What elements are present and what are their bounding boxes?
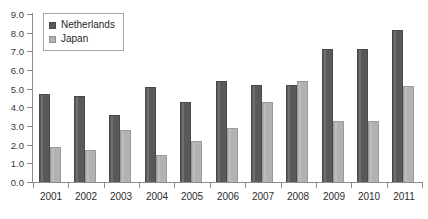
x-axis-tick xyxy=(387,183,388,188)
bar-netherlands-2010 xyxy=(357,49,368,182)
x-axis-tick-label: 2002 xyxy=(66,192,106,202)
bar-netherlands-2008 xyxy=(286,85,297,182)
x-axis-tick xyxy=(245,183,246,188)
bar-netherlands-2005 xyxy=(180,102,191,182)
x-axis-tick-label: 2008 xyxy=(278,192,318,202)
legend-label-japan: Japan xyxy=(61,34,88,44)
bar-highlight xyxy=(76,97,78,182)
bar-highlight xyxy=(229,129,231,182)
bar-japan-2005 xyxy=(191,141,202,182)
bar-netherlands-2004 xyxy=(145,87,156,182)
bar-japan-2009 xyxy=(333,121,344,182)
bar-highlight xyxy=(264,103,266,182)
bar-japan-2002 xyxy=(85,150,96,182)
bar-japan-2008 xyxy=(297,81,308,182)
legend-item-netherlands: Netherlands xyxy=(49,18,115,32)
bar-highlight xyxy=(87,151,89,182)
bar-highlight xyxy=(52,148,54,182)
bar-japan-2004 xyxy=(156,155,167,182)
x-axis-tick-label: 2001 xyxy=(31,192,71,202)
x-axis-tick xyxy=(104,183,105,188)
bar-highlight xyxy=(147,88,149,182)
bar-highlight xyxy=(335,122,337,182)
x-axis-tick-label: 2007 xyxy=(243,192,283,202)
bar-netherlands-2009 xyxy=(322,49,333,182)
y-axis-tick-label: 4.0 xyxy=(0,103,24,113)
x-axis-tick xyxy=(68,183,69,188)
y-axis-tick-label: 7.0 xyxy=(0,47,24,57)
bar-chart: 9.08.07.06.05.04.03.02.01.00.0 200120022… xyxy=(0,0,428,219)
bar-highlight xyxy=(111,116,113,182)
x-axis-tick xyxy=(33,183,34,188)
x-axis-line xyxy=(32,182,423,183)
x-axis-tick xyxy=(174,183,175,188)
bar-highlight xyxy=(253,86,255,182)
bar-highlight xyxy=(193,142,195,182)
bar-netherlands-2011 xyxy=(392,30,403,182)
y-axis-tick-label: 0.0 xyxy=(0,178,24,188)
bar-netherlands-2001 xyxy=(39,94,50,182)
bar-highlight xyxy=(394,31,396,182)
legend-swatch-japan xyxy=(49,36,56,43)
bar-japan-2010 xyxy=(368,121,379,182)
bar-highlight xyxy=(122,131,124,182)
x-axis-tick-label: 2010 xyxy=(349,192,389,202)
bar-japan-2003 xyxy=(120,130,131,182)
x-axis-tick-label: 2006 xyxy=(208,192,248,202)
x-axis-tick-label: 2009 xyxy=(314,192,354,202)
x-axis-tick xyxy=(210,183,211,188)
bar-highlight xyxy=(324,50,326,182)
bar-japan-2006 xyxy=(227,128,238,182)
x-axis-tick-label: 2005 xyxy=(172,192,212,202)
x-axis-tick xyxy=(316,183,317,188)
bar-highlight xyxy=(405,87,407,182)
bar-highlight xyxy=(218,82,220,182)
chart-legend: Netherlands Japan xyxy=(43,13,124,51)
y-axis-tick-label: 1.0 xyxy=(0,159,24,169)
y-axis-tick-label: 5.0 xyxy=(0,85,24,95)
bar-highlight xyxy=(182,103,184,182)
bar-japan-2007 xyxy=(262,102,273,182)
y-axis-tick-label: 2.0 xyxy=(0,141,24,151)
bar-netherlands-2003 xyxy=(109,115,120,182)
bar-japan-2001 xyxy=(50,147,61,182)
bar-netherlands-2002 xyxy=(74,96,85,182)
x-axis-tick xyxy=(422,183,423,188)
x-axis-tick-label: 2003 xyxy=(101,192,141,202)
legend-swatch-netherlands xyxy=(49,22,56,29)
bar-netherlands-2007 xyxy=(251,85,262,182)
legend-label-netherlands: Netherlands xyxy=(61,20,115,30)
bar-highlight xyxy=(288,86,290,182)
x-axis-tick-label: 2004 xyxy=(137,192,177,202)
y-axis-tick-label: 9.0 xyxy=(0,10,24,20)
legend-item-japan: Japan xyxy=(49,32,115,46)
x-axis-tick xyxy=(281,183,282,188)
y-axis-tick-label: 3.0 xyxy=(0,122,24,132)
y-axis-tick-label: 8.0 xyxy=(0,29,24,39)
y-axis-tick-label: 6.0 xyxy=(0,66,24,76)
bar-highlight xyxy=(359,50,361,182)
x-axis-tick-label: 2011 xyxy=(384,192,424,202)
bar-highlight xyxy=(41,95,43,182)
bar-netherlands-2006 xyxy=(216,81,227,182)
bar-highlight xyxy=(158,156,160,182)
bar-japan-2011 xyxy=(403,86,414,182)
x-axis-tick xyxy=(351,183,352,188)
bar-highlight xyxy=(370,122,372,182)
bar-highlight xyxy=(299,82,301,182)
x-axis-tick xyxy=(139,183,140,188)
